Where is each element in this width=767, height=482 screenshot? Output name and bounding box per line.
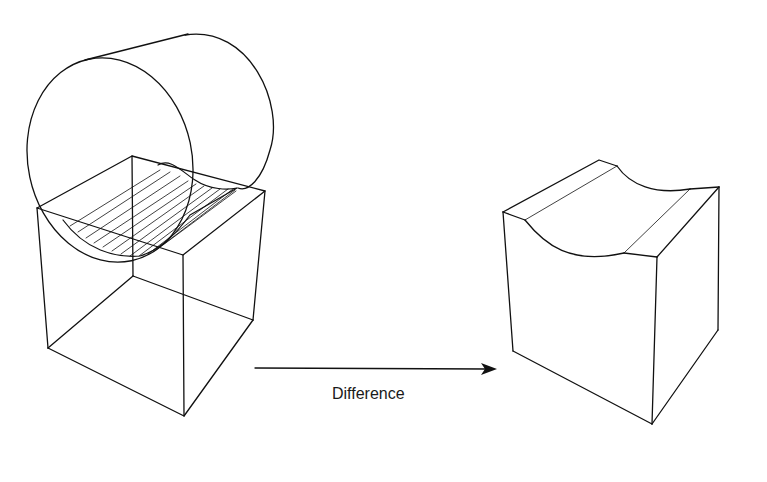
- arrow: [255, 363, 497, 375]
- grooved-cube: [503, 160, 719, 424]
- diagram-canvas: [0, 0, 767, 482]
- operation-label: Difference: [332, 385, 405, 403]
